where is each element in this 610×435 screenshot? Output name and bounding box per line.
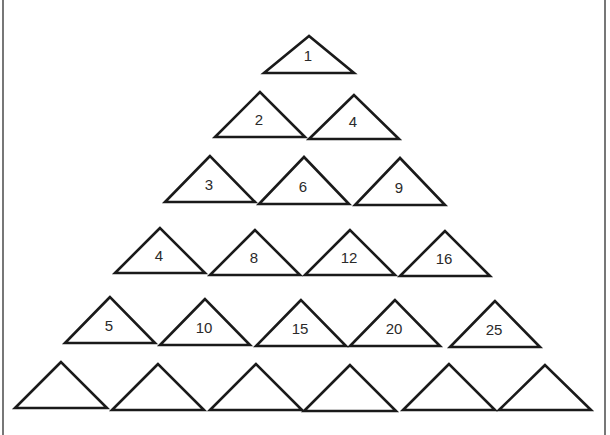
number-triangle: 6 (259, 157, 349, 204)
number-triangle: 25 (450, 301, 540, 347)
number-triangle (15, 362, 107, 408)
triangle-shape (15, 362, 107, 408)
number-triangle (112, 364, 204, 410)
triangle-number: 5 (105, 317, 113, 334)
triangle-shape (210, 364, 302, 410)
triangle-number: 6 (299, 178, 307, 195)
triangle-number: 4 (349, 113, 357, 130)
triangle-number: 12 (341, 249, 358, 266)
triangle-shape (403, 364, 495, 410)
number-triangle: 4 (309, 95, 399, 139)
triangle-number: 10 (196, 319, 213, 336)
triangle-row-3: 369 (165, 156, 445, 205)
triangle-number: 2 (255, 111, 263, 128)
triangle-number: 4 (155, 247, 163, 264)
triangle-number: 25 (486, 321, 503, 338)
triangle-pyramid-diagram: 124369481216510152025 (0, 0, 610, 435)
number-triangle (304, 365, 396, 411)
triangle-number: 15 (292, 320, 309, 337)
triangle-shape (112, 364, 204, 410)
number-triangle (403, 364, 495, 410)
triangle-row-6 (15, 362, 591, 411)
triangle-number: 8 (250, 249, 258, 266)
triangle-number: 16 (436, 250, 453, 267)
number-triangle: 2 (215, 92, 305, 137)
triangle-shape (304, 365, 396, 411)
triangle-number: 20 (386, 320, 403, 337)
worksheet-frame: 124369481216510152025 (0, 0, 610, 435)
number-triangle: 3 (165, 156, 255, 202)
triangle-shape (499, 365, 591, 410)
triangle-row-1: 1 (264, 36, 354, 73)
number-triangle: 4 (115, 228, 205, 273)
triangle-row-5: 510152025 (65, 297, 540, 347)
number-triangle: 12 (305, 230, 395, 275)
triangle-number: 3 (205, 176, 213, 193)
number-triangle: 15 (256, 300, 346, 346)
number-triangle: 1 (264, 36, 354, 73)
triangle-row-2: 24 (215, 92, 399, 139)
number-triangle (499, 365, 591, 410)
number-triangle: 10 (160, 299, 250, 345)
number-triangle: 8 (210, 230, 300, 275)
number-triangle (210, 364, 302, 410)
number-triangle: 20 (350, 300, 440, 346)
triangles-layer: 124369481216510152025 (15, 36, 591, 411)
triangle-number: 9 (395, 179, 403, 196)
triangle-number: 1 (304, 47, 312, 64)
triangle-row-4: 481216 (115, 228, 490, 276)
number-triangle: 9 (355, 158, 445, 205)
number-triangle: 16 (400, 231, 490, 276)
number-triangle: 5 (65, 297, 155, 343)
